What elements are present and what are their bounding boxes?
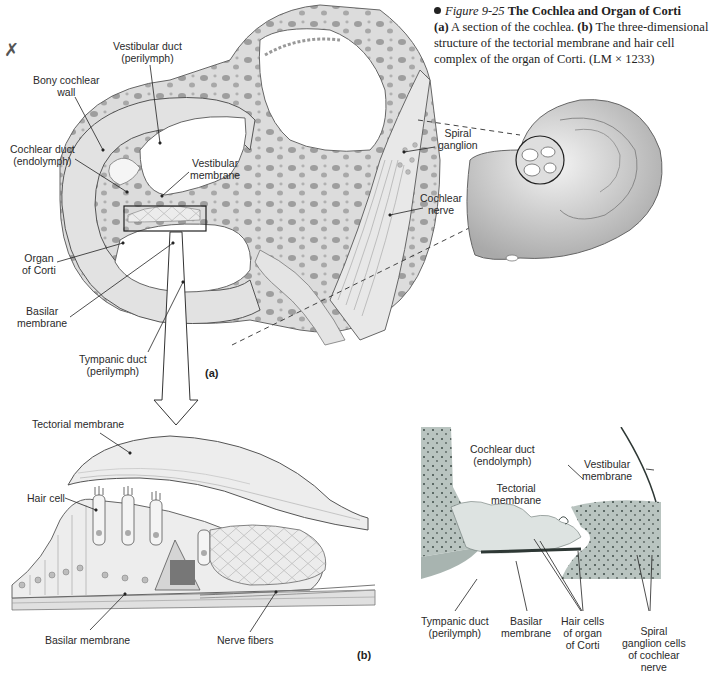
label-spiral-ganglion: Spiralganglion [438,127,478,151]
panel-b-tag: (b) [357,649,371,661]
label-micro-tectorial-membrane: Tectorialmembrane [491,482,541,506]
label-bony-cochlear-wall: Bony cochlearwall [33,74,100,98]
label-cochlear-duct: Cochlear duct(endolymph) [10,143,75,167]
label-vestibular-membrane: Vestibularmembrane [190,157,240,181]
label-micro-basilar-membrane: Basilarmembrane [501,615,551,639]
label-micro-tympanic-duct: Tympanic duct(perilymph) [421,615,489,639]
panel-a-tag: (a) [205,367,218,379]
label-organ-of-corti: Organof Corti [22,252,56,276]
label-micro-cochlear-duct: Cochlear duct(endolymph) [470,443,535,467]
label-micro-hair-cells: Hair cellsof organof Corti [561,615,604,651]
label-micro-vestibular-membrane: Vestibularmembrane [582,458,632,482]
micrograph-leaders [0,0,716,678]
label-tympanic-duct: Tympanic duct(perilymph) [79,353,147,377]
label-basilar-membrane-b: Basilar membrane [45,634,130,646]
label-micro-spiral-ganglion-cells: Spiralganglion cellsof cochlearnerve [622,625,686,673]
label-cochlear-nerve: Cochlearnerve [420,192,462,216]
label-hair-cell: Hair cell [27,492,65,504]
label-vestibular-duct: Vestibular duct(perilymph) [113,40,182,64]
label-basilar-membrane-a: Basilarmembrane [17,305,67,329]
label-nerve-fibers: Nerve fibers [217,634,274,646]
label-tectorial-membrane-b: Tectorial membrane [32,418,124,430]
